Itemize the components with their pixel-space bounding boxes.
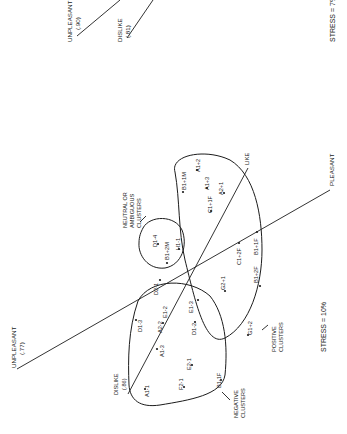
- point-b1p1m: [182, 191, 184, 193]
- negative-pointer: [222, 392, 230, 400]
- point-b1p2f: [259, 285, 261, 287]
- svg-text:CLUSTERS: CLUSTERS: [240, 388, 246, 418]
- point-d1m2: [194, 321, 196, 323]
- unpleasant-value: (.77): [18, 342, 25, 355]
- point-b1p1f: [256, 231, 258, 233]
- dislike-value-top: (.81): [124, 25, 131, 38]
- positive-pointer: [262, 325, 268, 330]
- svg-text:D1-3: D1-3: [137, 320, 143, 332]
- svg-text:H1-1: H1-1: [175, 238, 181, 250]
- stress-label-top: STRESS = 7%: [329, 0, 336, 42]
- top-panel: UNPLEASANT (.90) DISLIKE (.81) STRESS = …: [66, 0, 336, 42]
- svg-text:CLUSTERS: CLUSTERS: [136, 198, 142, 228]
- positive-cluster-label: POSITIVE CLUSTERS: [262, 322, 284, 352]
- stress-label: STRESS = 10%: [320, 302, 327, 352]
- svg-text:D2-1: D2-1: [153, 283, 159, 295]
- svg-text:E1-3: E1-3: [188, 301, 194, 313]
- neutral-cluster-label: NEUTRAL OR AMBIGUOUS CLUSTERS: [122, 192, 146, 228]
- svg-text:A1-1: A1-1: [144, 385, 150, 397]
- negative-points: D2-1 D1-3 A2-2 E1-2 E1-3 A1-3 D1-2 E2-1 …: [135, 279, 222, 397]
- point-c1p2f: [238, 242, 240, 244]
- svg-text:A2-2: A2-2: [157, 321, 163, 333]
- svg-text:D1-4: D1-4: [152, 235, 158, 247]
- svg-text:F2-1: F2-1: [178, 378, 184, 390]
- point-b1p2m: [166, 262, 168, 264]
- svg-text:CLUSTERS: CLUSTERS: [278, 322, 284, 352]
- svg-text:A1+3: A1+3: [204, 177, 210, 190]
- point-a1m3: [156, 348, 158, 350]
- neutral-points: D1-4 B1+2M H1-1: [152, 235, 181, 264]
- unpleasant-value-top: (.90): [74, 17, 81, 30]
- svg-text:A1+2: A1+2: [195, 159, 201, 172]
- svg-text:AMBIGUOUS: AMBIGUOUS: [129, 194, 135, 228]
- svg-text:E2-1: E2-1: [186, 358, 192, 370]
- unpleasant-axis-top: [77, 0, 120, 36]
- unpleasant-label: UNPLEASANT: [10, 327, 17, 368]
- point-d2m1: [159, 279, 161, 281]
- svg-text:G1+2: G1+2: [247, 321, 253, 335]
- svg-text:G2+1: G2+1: [220, 276, 226, 290]
- svg-text:B1-1F: B1-1F: [216, 372, 222, 388]
- dislike-value: (.86): [121, 378, 127, 390]
- negative-cluster-label: NEGATIVE CLUSTERS: [222, 388, 246, 418]
- unpleasant-label-top: UNPLEASANT: [66, 1, 73, 42]
- svg-text:B1+1M: B1+1M: [181, 172, 187, 190]
- svg-text:B1+2M: B1+2M: [164, 242, 170, 260]
- svg-text:E1-2: E1-2: [162, 306, 168, 318]
- svg-text:A2+1: A2+1: [218, 182, 224, 195]
- pleasant-label: PLEASANT: [328, 153, 335, 186]
- svg-text:B1+2F: B1+2F: [253, 266, 259, 283]
- svg-text:A1-3: A1-3: [159, 345, 165, 357]
- like-label: LIKE: [244, 153, 250, 165]
- svg-text:B1+1F: B1+1F: [253, 238, 259, 255]
- svg-text:C1+2F: C1+2F: [236, 247, 242, 265]
- mds-diagram: UNPLEASANT (.90) DISLIKE (.81) STRESS = …: [0, 0, 347, 434]
- point-e1m3: [197, 299, 199, 301]
- dislike-label-top: DISLIKE: [116, 18, 123, 42]
- main-panel: UNPLEASANT (.77) PLEASANT DISLIKE (.86) …: [10, 153, 335, 418]
- svg-text:NEUTRAL OR: NEUTRAL OR: [122, 192, 128, 228]
- svg-text:D1-2: D1-2: [191, 323, 197, 335]
- svg-text:C1+1F: C1+1F: [207, 195, 213, 213]
- svg-text:POSITIVE: POSITIVE: [271, 326, 277, 352]
- svg-text:NEGATIVE: NEGATIVE: [233, 390, 239, 418]
- dislike-label: DISLIKE: [113, 373, 119, 395]
